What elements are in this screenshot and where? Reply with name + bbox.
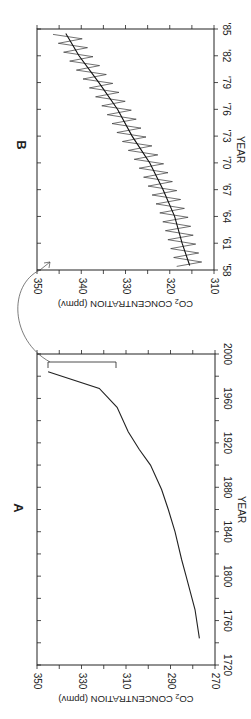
x-tick-label: 1760	[222, 609, 233, 632]
y-tick-label: 350	[32, 673, 43, 690]
arrowhead-icon	[40, 262, 50, 270]
y-tick-label: 350	[32, 278, 43, 295]
x-axis-title: YEAR	[235, 136, 246, 163]
panel-a-chart: 2702903103303501720176018001840188019201…	[11, 343, 248, 706]
panel-a-title: A	[11, 503, 26, 513]
y-axis-title: CO2 CONCENTRATION (ppmv)	[58, 298, 193, 310]
x-tick-label: '61	[221, 237, 232, 250]
y-tick-label: 270	[210, 673, 221, 690]
panel-b-title: B	[14, 140, 29, 149]
y-tick-label: 310	[121, 673, 132, 690]
y-tick-label: 330	[77, 673, 88, 690]
co2-figure: 2702903103303501720176018001840188019201…	[0, 0, 251, 719]
x-tick-label: '82	[221, 49, 232, 62]
x-tick-label: '70	[221, 156, 232, 169]
x-tick-label: '79	[221, 76, 232, 89]
y-tick-label: 310	[209, 278, 220, 295]
x-tick-label: 1960	[222, 387, 233, 410]
x-tick-label: 1840	[222, 521, 233, 544]
x-tick-label: 1800	[222, 565, 233, 588]
x-tick-label: '76	[221, 103, 232, 116]
x-tick-label: 1920	[222, 432, 233, 455]
y-tick-label: 320	[165, 278, 176, 295]
x-tick-label: '85	[221, 22, 232, 35]
co2-curve-ice-core	[48, 372, 199, 639]
x-tick-label: '58	[221, 263, 232, 276]
plot-frame	[37, 354, 215, 665]
x-tick-label: '73	[221, 130, 232, 143]
range-bracket	[48, 362, 116, 368]
plot-frame	[37, 29, 214, 270]
y-tick-label: 330	[121, 278, 132, 295]
y-axis-title: CO2 CONCENTRATION (ppmv)	[58, 693, 193, 705]
y-tick-label: 340	[77, 278, 88, 295]
x-tick-label: 1720	[222, 654, 233, 677]
x-tick-label: 2000	[222, 343, 233, 366]
x-tick-label: '64	[221, 210, 232, 223]
panel-b-chart: 310320330340350'58'61'64'67'70'73'76'79'…	[14, 22, 247, 310]
y-tick-label: 290	[166, 673, 177, 690]
x-tick-label: 1880	[222, 476, 233, 499]
x-axis-title: YEAR	[236, 496, 247, 523]
x-tick-label: '67	[221, 183, 232, 196]
